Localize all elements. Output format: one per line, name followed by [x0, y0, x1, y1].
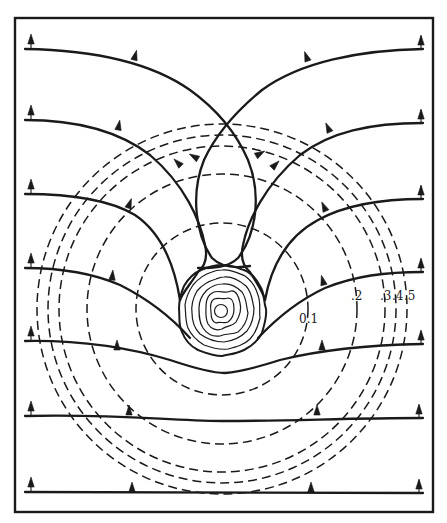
field-diagram: 0.1 .2 .3 .4 .5 — [0, 0, 447, 523]
field-line-7 — [25, 492, 423, 493]
arrow-icon — [418, 330, 424, 344]
arrow-icon — [126, 405, 132, 415]
dashed-circles — [37, 124, 407, 494]
arrow-icon — [28, 34, 34, 49]
arrow-icon — [418, 258, 424, 272]
arrow-icon — [28, 401, 34, 416]
arrow-icon — [114, 340, 120, 350]
field-line-4-right — [258, 272, 423, 338]
label-0.3: .3 — [380, 289, 391, 303]
label-0.4: .4 — [392, 289, 404, 303]
body-contour-3 — [192, 277, 254, 342]
arrowheads — [28, 34, 424, 493]
arrow-icon — [418, 35, 424, 49]
arrow-icon — [129, 482, 135, 492]
arrow-icon — [28, 253, 34, 268]
field-line-5 — [25, 341, 423, 373]
arrow-icon — [188, 151, 200, 162]
arrow-icon — [109, 270, 116, 281]
field-line-6 — [25, 416, 423, 421]
field-line-4-left — [25, 268, 190, 338]
circle-0.1 — [136, 223, 308, 395]
arrow-icon — [28, 179, 34, 194]
arrow-icon — [28, 105, 34, 120]
field-lines — [25, 49, 423, 493]
circle-0.3 — [59, 146, 385, 472]
arrow-icon — [28, 477, 34, 492]
circle-0.4 — [48, 135, 396, 483]
circle-0.5 — [37, 124, 407, 494]
arrow-icon — [319, 201, 329, 213]
arrow-icon — [28, 326, 34, 341]
arrow-icon — [308, 482, 314, 492]
label-0.5: .5 — [404, 289, 415, 303]
field-line-1-left — [25, 49, 256, 268]
arrow-icon — [314, 405, 320, 415]
arrow-icon — [270, 159, 282, 171]
circle-0.2 — [87, 174, 357, 444]
arrow-icon — [115, 120, 123, 131]
arrow-icon — [416, 404, 422, 418]
body-core — [215, 305, 228, 318]
label-0.1: 0.1 — [299, 312, 318, 326]
arrow-icon — [323, 122, 333, 134]
arrow-icon — [318, 275, 327, 286]
arrow-icon — [302, 51, 311, 63]
arrow-icon — [418, 109, 424, 123]
label-0.2: .2 — [351, 289, 362, 303]
diagram-canvas: 0.1 .2 .3 .4 .5 — [0, 0, 447, 523]
body-contour-2 — [185, 270, 260, 349]
arrow-icon — [172, 157, 184, 169]
arrow-icon — [131, 50, 140, 61]
arrow-icon — [416, 479, 422, 493]
arrow-icon — [418, 185, 424, 199]
arrow-icon — [319, 340, 325, 350]
